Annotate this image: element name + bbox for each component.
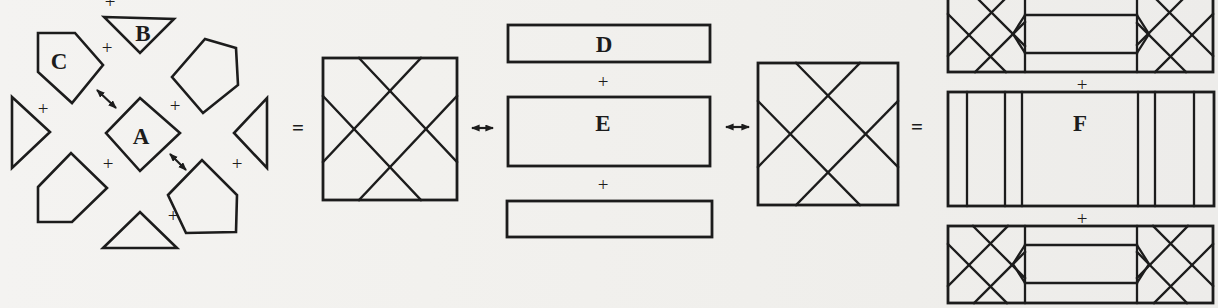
figure-canvas: A B C + + + + + + + = = D + E + xyxy=(0,0,1218,308)
lattice-line xyxy=(948,244,1007,303)
diagonal-double-arrow-icon xyxy=(170,154,186,170)
plus-sign: + xyxy=(598,174,609,195)
strip-outline xyxy=(948,226,1213,303)
strip-outline xyxy=(948,0,1213,72)
pentagon-lower-left xyxy=(38,153,107,222)
strip-outline xyxy=(948,92,1214,206)
strip-stack-middle: D + E + xyxy=(507,25,712,237)
piece-c-label: C xyxy=(51,49,68,74)
pieces-cluster: A B C + + + + + + + xyxy=(12,0,267,248)
strip-unlabeled xyxy=(507,201,712,237)
plus-sign: + xyxy=(102,37,113,58)
strip-top-patterned xyxy=(948,0,1213,72)
pentagon-upper-right xyxy=(172,39,238,113)
strip-d-label: D xyxy=(596,32,613,57)
strip-stack-right: + F + xyxy=(948,0,1214,303)
square-outline xyxy=(323,58,457,200)
dissection-figure: A B C + + + + + + + = = D + E + xyxy=(0,0,1218,308)
square-dissection-right xyxy=(758,63,898,205)
square-dissection-left xyxy=(323,58,457,200)
lattice-line xyxy=(948,14,1006,72)
strip-bottom-patterned xyxy=(948,226,1213,303)
triangle-bottom xyxy=(103,212,177,248)
plus-sign: + xyxy=(232,153,243,174)
strip-f-label: F xyxy=(1073,111,1087,136)
equals-sign: = xyxy=(911,115,923,139)
square-outline xyxy=(758,63,898,205)
plus-sign: + xyxy=(38,98,49,119)
plus-sign: + xyxy=(103,153,114,174)
diagonal-double-arrow-icon xyxy=(97,90,116,108)
strip-f: F xyxy=(948,92,1214,206)
strip-e-label: E xyxy=(595,111,610,136)
piece-b-label: B xyxy=(135,21,150,46)
lattice-line xyxy=(1155,14,1213,72)
piece-a-label: A xyxy=(133,124,150,149)
equals-sign: = xyxy=(292,116,304,140)
piece-c-pentagon xyxy=(38,33,103,103)
band-piece xyxy=(1013,15,1025,53)
plus-sign: + xyxy=(105,0,116,12)
plus-sign: + xyxy=(598,71,609,92)
plus-sign: + xyxy=(170,95,181,116)
plus-sign: + xyxy=(168,205,179,226)
